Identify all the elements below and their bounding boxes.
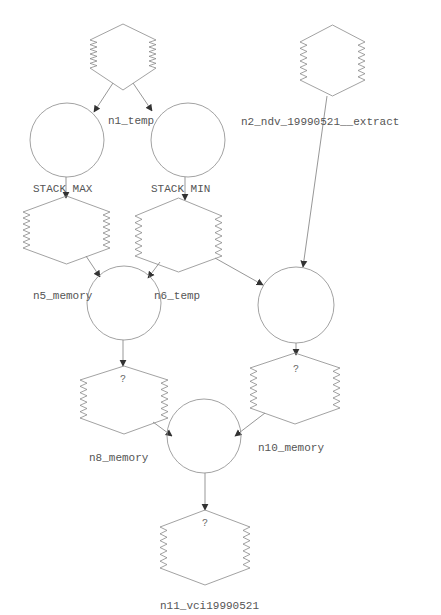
label-q-n8: ?: [120, 374, 126, 385]
stack-outline: [250, 368, 257, 408]
label-q-n11: ?: [202, 518, 208, 529]
stack-outline: [300, 80, 365, 96]
stack-node-src-right[interactable]: [300, 25, 365, 96]
label-n10-memory: n10_memory: [258, 442, 324, 454]
stack-outline: [160, 568, 250, 585]
edge-src-left-to-op-max: [94, 83, 113, 112]
label-n5-memory: n5_memory: [33, 290, 93, 302]
label-n11-vci: n11_vci19990521: [160, 600, 259, 612]
stack-nodes: [23, 24, 365, 585]
stack-outline: [333, 368, 340, 408]
edge-src-left-to-op-min: [133, 83, 152, 111]
stack-outline: [135, 198, 222, 216]
label-stack-max: STACK MAX: [33, 183, 93, 195]
stack-outline: [23, 248, 110, 264]
stack-outline: [80, 380, 87, 418]
stack-outline: [300, 25, 365, 42]
stack-outline: [161, 380, 168, 418]
stack-outline: [90, 40, 97, 68]
label-n6-temp: n6_temp: [154, 290, 200, 302]
operator-node-max[interactable]: [30, 103, 104, 177]
stack-outline: [300, 42, 307, 80]
stack-outline: [103, 212, 110, 248]
stack-outline: [135, 256, 222, 272]
stack-outline: [160, 527, 167, 568]
label-stack-min: STACK MIN: [151, 183, 210, 195]
label-n1-temp: n1_temp: [108, 115, 154, 127]
edge-stack-max-to-merge1: [86, 256, 100, 277]
label-n8-memory: n8_memory: [89, 452, 149, 464]
operator-node-merge2[interactable]: [258, 267, 334, 343]
stack-outline: [243, 527, 250, 568]
operator-node-merge1[interactable]: [87, 266, 161, 340]
stack-outline: [358, 42, 365, 80]
stack-outline: [250, 408, 340, 424]
stack-outline: [135, 216, 142, 256]
stack-node-src-left[interactable]: [90, 24, 156, 90]
stack-outline: [23, 212, 30, 248]
dataflow-diagram: n1_temp n2_ndv_19990521__extract STACK M…: [0, 0, 441, 615]
edge-stack-min-to-merge2: [215, 258, 263, 285]
stack-outline: [149, 40, 156, 68]
labels: n1_temp n2_ndv_19990521__extract STACK M…: [33, 115, 399, 612]
stack-outline: [23, 196, 110, 212]
operator-node-final[interactable]: [167, 399, 241, 473]
stack-outline: [90, 24, 156, 40]
label-q-n10: ?: [293, 364, 299, 375]
stack-node-stack-min[interactable]: [135, 198, 222, 272]
stack-outline: [80, 418, 168, 434]
stack-outline: [90, 68, 156, 90]
operator-nodes: [30, 103, 334, 473]
stack-outline: [215, 216, 222, 256]
operator-node-min[interactable]: [151, 103, 225, 177]
stack-node-stack-max[interactable]: [23, 196, 110, 264]
label-n2-extract: n2_ndv_19990521__extract: [241, 116, 399, 128]
